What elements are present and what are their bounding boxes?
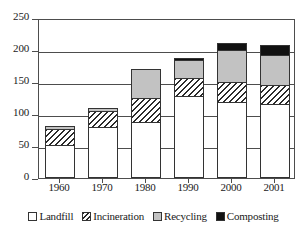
bar-segment-composting[interactable]: [260, 45, 290, 55]
y-tick-label: 250: [13, 11, 29, 22]
bar-segment-landfill[interactable]: [174, 96, 204, 178]
chart-legend: LandfillIncinerationRecyclingComposting: [0, 210, 307, 222]
bar-segment-recycling[interactable]: [260, 55, 290, 86]
legend-swatch-composting-icon: [216, 212, 225, 221]
legend-label: Recycling: [164, 210, 207, 222]
bar-segment-incineration[interactable]: [88, 111, 118, 126]
plot-area: [38, 19, 295, 179]
legend-label: Composting: [227, 210, 279, 222]
bar-group[interactable]: [260, 45, 290, 178]
gridline-200: [39, 52, 294, 53]
legend-swatch-recycling-icon: [153, 212, 162, 221]
y-tick-label: 50: [18, 139, 29, 150]
legend-swatch-incineration-icon: [82, 212, 91, 221]
y-tick-label: 150: [13, 75, 29, 86]
gridline-100: [39, 116, 294, 117]
legend-item-landfill[interactable]: Landfill: [28, 210, 73, 222]
x-tick-mark: [145, 179, 146, 183]
bar-segment-recycling[interactable]: [174, 60, 204, 79]
x-tick-mark: [231, 179, 232, 183]
legend-item-incineration[interactable]: Incineration: [82, 210, 144, 222]
legend-swatch-landfill-icon: [28, 212, 37, 221]
bar-segment-incineration[interactable]: [217, 82, 247, 102]
bar-group[interactable]: [88, 108, 118, 178]
y-tick-label: 200: [13, 43, 29, 54]
gridline-150: [39, 84, 294, 85]
bar-group[interactable]: [131, 69, 161, 178]
bar-segment-incineration[interactable]: [174, 78, 204, 96]
bar-segment-landfill[interactable]: [45, 145, 75, 178]
bar-segment-incineration[interactable]: [45, 129, 75, 144]
bar-segment-landfill[interactable]: [217, 102, 247, 178]
legend-item-recycling[interactable]: Recycling: [153, 210, 207, 222]
y-tick-label: 100: [13, 107, 29, 118]
bar-group[interactable]: [217, 43, 247, 178]
x-tick-mark: [188, 179, 189, 183]
y-axis: 250 200 150 100 50 0: [0, 19, 38, 179]
bar-segment-composting[interactable]: [217, 43, 247, 50]
x-tick-mark: [59, 179, 60, 183]
stacked-bar-chart: 250 200 150 100 50 0 19601970: [0, 0, 307, 236]
x-axis: 196019701980199020002001: [38, 181, 295, 201]
legend-label: Landfill: [39, 210, 73, 222]
x-tick-mark: [102, 179, 103, 183]
y-tick-mark: [32, 179, 38, 180]
bar-segment-incineration[interactable]: [260, 85, 290, 104]
bar-group[interactable]: [174, 58, 204, 178]
y-tick-label: 0: [24, 171, 29, 182]
x-tick-mark: [274, 179, 275, 183]
bar-group[interactable]: [45, 126, 75, 178]
bar-segment-incineration[interactable]: [131, 98, 161, 122]
bar-segment-recycling[interactable]: [131, 69, 161, 98]
bar-segment-landfill[interactable]: [260, 104, 290, 178]
bar-segment-landfill[interactable]: [131, 122, 161, 178]
gridline-50: [39, 148, 294, 149]
legend-label: Incineration: [93, 210, 144, 222]
bar-segment-landfill[interactable]: [88, 127, 118, 178]
bar-segment-recycling[interactable]: [217, 50, 247, 82]
legend-item-composting[interactable]: Composting: [216, 210, 279, 222]
